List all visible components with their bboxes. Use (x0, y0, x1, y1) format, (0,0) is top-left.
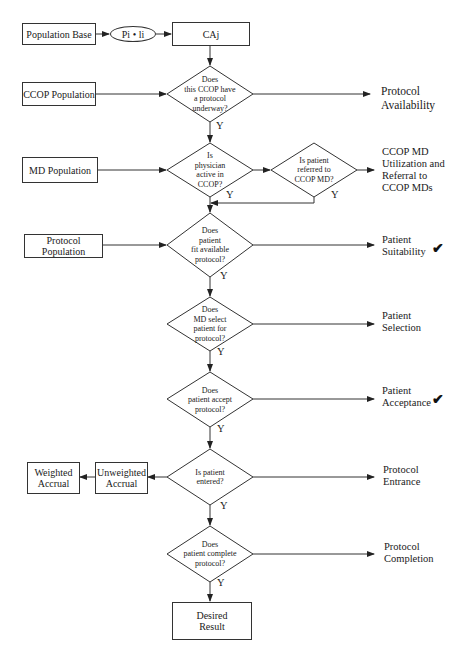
outcome-patient-selection: Patient Selection (382, 310, 421, 334)
decision-line: Does (184, 75, 235, 85)
yes-label: Y (217, 346, 225, 357)
decision-line: a protocol (184, 94, 235, 104)
decision-fit-protocol: Does patient fit available protocol? (172, 220, 248, 270)
outcome-line: CCOP MDs (382, 182, 445, 194)
accrual-line: Unweighted (97, 467, 146, 478)
yes-label: Y (331, 189, 339, 200)
outcome-line: Suitability (382, 246, 426, 258)
decision-line: active in (195, 170, 226, 180)
decision-line: protocol? (191, 255, 229, 265)
yes-label: Y (217, 577, 225, 588)
outcome-ccop-md-utilization: CCOP MD Utilization and Referral to CCOP… (382, 146, 445, 194)
protocol-population-box: Protocol Population (24, 234, 103, 258)
decision-line: Does (193, 305, 226, 315)
decision-line: CCOP MD? (294, 175, 333, 185)
decision-line: fit available (191, 245, 229, 255)
decision-line: Is patient (294, 156, 333, 166)
accrual-line: Weighted (34, 467, 72, 478)
accrual-line: Accrual (97, 478, 146, 489)
decision-physician-active: Is physician active in CCOP? (172, 147, 248, 193)
outcome-protocol-availability: Protocol Availability (381, 84, 435, 112)
outcome-line: Utilization and (382, 158, 445, 170)
outcome-line: Protocol (384, 541, 434, 553)
outcome-protocol-entrance: Protocol Entrance (383, 464, 420, 488)
protocol-population-label: Protocol Population (25, 235, 102, 257)
caj-label: CAj (203, 29, 220, 40)
population-base-label: Population Base (26, 29, 91, 40)
decision-line: patient (191, 236, 229, 246)
ccop-population-label: CCOP Population (23, 89, 95, 100)
decision-line: Does (188, 386, 232, 396)
decision-line: Is (195, 151, 226, 161)
checkmark-icon: ✔ (432, 391, 444, 408)
outcome-line: Protocol (383, 464, 420, 476)
pi-li-label: Pi • li (122, 29, 144, 40)
md-population-box: MD Population (22, 157, 98, 183)
decision-patient-entered: Is patient entered? (175, 463, 245, 491)
outcome-line: Availability (381, 98, 435, 112)
yes-label: Y (220, 270, 228, 281)
outcome-patient-suitability: Patient Suitability (382, 234, 426, 258)
decision-line: protocol? (193, 334, 226, 344)
outcome-line: Referral to (382, 170, 445, 182)
decision-referred-to-md: Is patient referred to CCOP MD? (280, 152, 348, 188)
outcome-line: Selection (382, 322, 421, 334)
checkmark-icon: ✔ (432, 240, 444, 257)
decision-line: protocol? (183, 559, 236, 569)
decision-line: CCOP? (195, 180, 226, 190)
decision-line: protocol? (188, 405, 232, 415)
outcome-line: Patient (382, 385, 431, 397)
decision-patient-complete: Does patient complete protocol? (172, 535, 248, 573)
decision-line: Does (191, 226, 229, 236)
decision-protocol-underway: Does this CCOP have a protocol underway? (172, 70, 248, 118)
outcome-line: Patient (382, 234, 426, 246)
yes-label: Y (220, 500, 228, 511)
decision-line: Is patient (195, 468, 225, 478)
accrual-line: Accrual (34, 478, 72, 489)
outcome-line: Protocol (381, 84, 435, 98)
yes-label: Y (226, 189, 234, 200)
final-line: Desired (196, 610, 227, 621)
decision-line: underway? (184, 104, 235, 114)
yes-label: Y (217, 423, 225, 434)
decision-line: physician (195, 161, 226, 171)
final-line: Result (196, 621, 227, 632)
ccop-population-box: CCOP Population (22, 82, 96, 106)
decision-md-select: Does MD select patient for protocol? (172, 301, 248, 347)
unweighted-accrual-box: Unweighted Accrual (95, 462, 148, 494)
outcome-patient-acceptance: Patient Acceptance (382, 385, 431, 409)
decision-line: MD select (193, 315, 226, 325)
population-base-box: Population Base (22, 23, 96, 45)
yes-label: Y (216, 120, 224, 131)
decision-patient-accept: Does patient accept protocol? (172, 380, 248, 420)
outcome-line: Patient (382, 310, 421, 322)
outcome-line: Entrance (383, 476, 420, 488)
outcome-protocol-completion: Protocol Completion (384, 541, 434, 565)
decision-line: patient complete (183, 549, 236, 559)
decision-line: patient accept (188, 395, 232, 405)
decision-line: this CCOP have (184, 85, 235, 95)
outcome-line: CCOP MD (382, 146, 445, 158)
outcome-line: Completion (384, 553, 434, 565)
desired-result-box: Desired Result (172, 602, 252, 640)
md-population-label: MD Population (29, 165, 91, 176)
decision-line: patient for (193, 324, 226, 334)
decision-line: referred to (294, 165, 333, 175)
caj-box: CAj (172, 22, 250, 46)
decision-line: Does (183, 540, 236, 550)
outcome-line: Acceptance (382, 397, 431, 409)
decision-line: entered? (195, 477, 225, 487)
weighted-accrual-box: Weighted Accrual (27, 462, 80, 494)
pi-li-ellipse: Pi • li (110, 26, 156, 42)
